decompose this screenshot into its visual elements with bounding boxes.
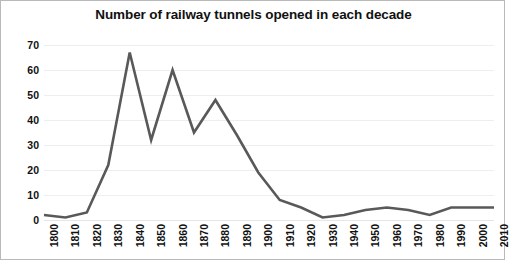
x-axis-tick-label: 1910	[285, 224, 296, 247]
x-axis-tick-label: 1800	[49, 224, 60, 247]
x-axis-tick-label: 1970	[413, 224, 424, 247]
y-axis-tick-label: 40	[1, 115, 39, 126]
x-axis-tick-label: 1840	[135, 224, 146, 247]
chart-title: Number of railway tunnels opened in each…	[1, 7, 506, 22]
x-axis-tick-label: 1900	[263, 224, 274, 247]
y-axis-tick-label: 20	[1, 165, 39, 176]
x-axis-tick-label: 1940	[349, 224, 360, 247]
x-axis-tick-label: 1980	[435, 224, 446, 247]
x-axis-tick-label: 2010	[499, 224, 510, 247]
plot-area	[44, 45, 494, 220]
x-axis-tick-label: 1950	[370, 224, 381, 247]
y-axis-tick-label: 50	[1, 90, 39, 101]
y-axis-tick-label: 70	[1, 40, 39, 51]
y-axis-tick-label: 60	[1, 65, 39, 76]
x-axis-tick-label: 1930	[328, 224, 339, 247]
x-axis-tick-label: 1920	[306, 224, 317, 247]
line-series	[44, 45, 494, 220]
x-axis-tick-label: 1850	[156, 224, 167, 247]
x-axis-tick-label: 1890	[242, 224, 253, 247]
x-axis-tick-label: 1870	[199, 224, 210, 247]
y-axis-tick-label: 30	[1, 140, 39, 151]
series-polyline-tunnels	[44, 53, 494, 218]
x-axis-tick-label: 1810	[70, 224, 81, 247]
x-axis-tick-label: 1820	[92, 224, 103, 247]
x-axis-tick-label: 1860	[178, 224, 189, 247]
y-axis-tick-label: 0	[1, 215, 39, 226]
x-axis-tick-label: 1880	[220, 224, 231, 247]
x-axis: 1800181018201830184018501860187018801890…	[44, 222, 494, 260]
y-axis: 010203040506070	[1, 45, 39, 220]
x-axis-tick-label: 2000	[478, 224, 489, 247]
y-axis-tick-label: 10	[1, 190, 39, 201]
x-axis-tick-label: 1960	[392, 224, 403, 247]
gridline-0	[44, 220, 494, 221]
x-axis-tick-label: 1990	[456, 224, 467, 247]
x-axis-tick-label: 1830	[113, 224, 124, 247]
